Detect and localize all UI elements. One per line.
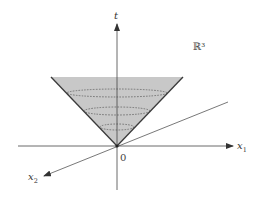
x1-axis-label: x1 xyxy=(237,140,247,154)
t-axis-label: t xyxy=(114,10,119,21)
space-label: ℝ³ xyxy=(193,41,205,52)
origin-point xyxy=(115,144,118,147)
origin-label: 0 xyxy=(120,152,126,163)
x2-axis-label: x2 xyxy=(28,171,38,185)
light-cone-diagram: t x1 x2 0 ℝ³ xyxy=(0,0,257,203)
